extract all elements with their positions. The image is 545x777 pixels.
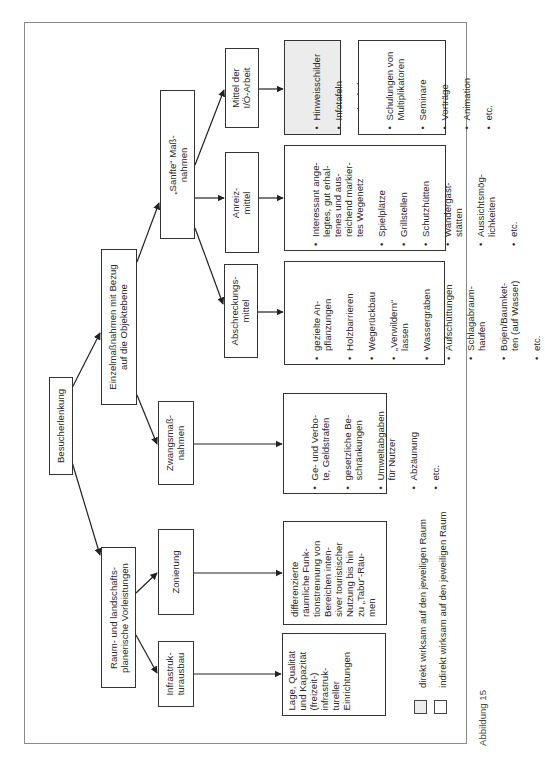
node-label: „Sanfte“ Maß- nahmen (160, 90, 195, 239)
list-item: Grillstellen (398, 150, 409, 246)
list-item: Aussichtsmög- lichkeiten (475, 150, 497, 246)
list-item: Wandergast- stätten (442, 150, 464, 246)
list-item: Schlagabraum- haufen (464, 266, 486, 360)
list-item: Schulungen von Multiplikatoren (384, 46, 406, 129)
list-item: „Verwildern“ lassen (387, 266, 409, 360)
list-item: Ge- und Verbo- te, Geldstrafen (309, 398, 331, 489)
list-item: Schutzhütten (420, 150, 431, 246)
node-label: Infrastruk- turausbau (158, 641, 194, 707)
list-item: gezielte An- pflanzungen (310, 266, 332, 360)
legend-swatch-direct (414, 700, 427, 714)
detail-list: Interessant ange- legtes, gut erhal- ten… (299, 150, 530, 246)
node-label: Zwangsmaß- nahmen (158, 401, 194, 485)
legend-swatch-indirect (434, 700, 447, 714)
list-item: etc. (508, 150, 519, 246)
node-label: Anreiz- mittel (225, 152, 259, 253)
node-zonierung: Zonierung (158, 529, 194, 615)
list-item: etc. (430, 398, 441, 489)
list-item: Aufschüttungen (442, 266, 453, 360)
list-item: Interessant ange- legtes, gut erhal- ten… (310, 150, 365, 246)
detail-schulungen: Schulungen von Multiplikatoren Seminare … (358, 40, 446, 135)
node-label: Einzelmaßnahmen mit Bezug auf die Objekt… (101, 249, 137, 405)
detail-zonierung: differenzierte räumliche Funk- tionstren… (283, 521, 387, 625)
list-item: Wassergräben (420, 266, 431, 360)
list-item: Holzbarrieren (343, 266, 354, 360)
list-item: Wegerückbau (365, 266, 376, 360)
list-item: Umweltabgaben für Nutzer (375, 398, 397, 489)
node-abschreckungsmittel: Abschreckungs- mittel (224, 264, 258, 358)
node-besucherlenkung: Besucherlenkung (49, 377, 73, 475)
legend-direct-label: direkt wirksam auf den jeweiligen Raum (417, 519, 428, 688)
list-item: Animation (461, 46, 472, 129)
node-sanfte-massnahmen: „Sanfte“ Maß- nahmen (160, 90, 195, 239)
node-anreizmittel: Anreiz- mittel (225, 152, 259, 253)
list-item: Seminare (417, 46, 428, 129)
figure-caption: Abbildung 15 (477, 690, 488, 746)
detail-abschreckung: gezielte An- pflanzungen Holzbarrieren W… (284, 261, 445, 365)
list-item: gesetzliche Be- schränkungen (342, 398, 364, 489)
detail-text: Lage, Qualität und Kapazität (freizeit-)… (282, 633, 386, 716)
list-item: Vorträge (439, 46, 450, 129)
detail-text: differenzierte räumliche Funk- tionstren… (283, 521, 387, 625)
detail-list: gezielte An- pflanzungen Holzbarrieren W… (299, 266, 545, 360)
list-item: Hinweisschilder (310, 46, 321, 129)
detail-hinweisschilder: Hinweisschilder Infotafeln Lehrpfade etc… (284, 40, 341, 135)
detail-anreiz-wegenetz: Interessant ange- legtes, gut erhal- ten… (284, 145, 446, 251)
node-raum-landschaftsplanung: Raum- und landschafts- planerische Vorle… (101, 547, 136, 688)
list-item: Abzäunung (408, 398, 419, 489)
node-label: Besucherlenkung (49, 377, 73, 475)
list-item: Bojen/Baumket- ten (auf Wasser) (497, 266, 519, 360)
node-label: Raum- und landschafts- planerische Vorle… (101, 547, 136, 688)
node-einzelmassnahmen: Einzelmaßnahmen mit Bezug auf die Objekt… (101, 249, 137, 405)
node-label: Abschreckungs- mittel (224, 264, 258, 358)
legend-indirect-label: indirekt wirksam auf den jeweiligen Raum (437, 512, 448, 689)
node-mittel-io-arbeit: Mittel der I/Ö-Arbeit (225, 48, 259, 128)
detail-list: Schulungen von Multiplikatoren Seminare … (373, 46, 505, 129)
list-item: Spielplätze (376, 150, 387, 246)
list-item: etc. (530, 266, 541, 360)
node-label: Zonierung (158, 529, 194, 615)
node-label: Mittel der I/Ö-Arbeit (225, 48, 259, 128)
node-infrastrukturausbau: Infrastruk- turausbau (158, 641, 194, 707)
list-item: etc. (483, 46, 494, 129)
detail-infrastruktur: Lage, Qualität und Kapazität (freizeit-)… (282, 633, 386, 716)
node-zwangsmassnahmen: Zwangsmaß- nahmen (158, 401, 194, 485)
detail-list: Ge- und Verbo- te, Geldstrafen gesetzlic… (298, 398, 452, 489)
detail-zwang: Ge- und Verbo- te, Geldstrafen gesetzlic… (283, 393, 387, 494)
list-item: Infotafeln (332, 46, 343, 129)
